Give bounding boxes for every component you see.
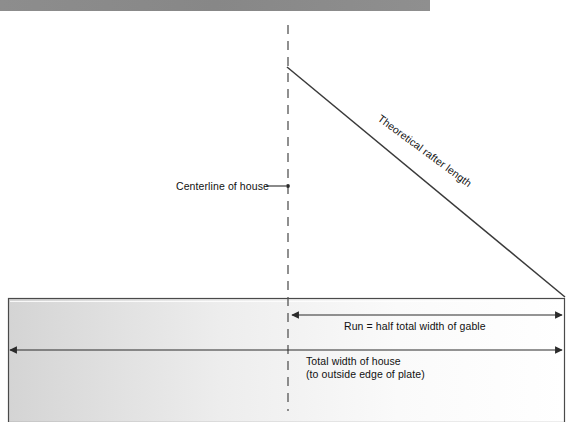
roof-framing-diagram — [0, 0, 575, 422]
label-total-width-note: (to outside edge of plate) — [306, 368, 425, 380]
diagram-canvas: Centerline of house Theoretical rafter l… — [0, 0, 575, 422]
top-plate-band — [9, 299, 565, 422]
label-total-width-of-house: Total width of house — [306, 355, 401, 367]
label-centerline-of-house: Centerline of house — [176, 180, 269, 192]
rafter-line — [287, 67, 565, 297]
top-gray-band — [0, 0, 430, 11]
label-run-half-total-width: Run = half total width of gable — [344, 320, 486, 332]
centerline-leader-dot — [286, 184, 290, 188]
